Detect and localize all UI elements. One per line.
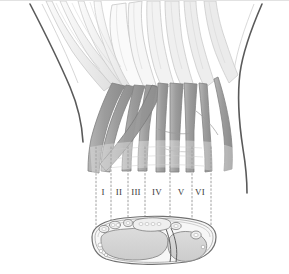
- anatomy-illustration: [0, 1, 289, 274]
- pocket-compartment-4-lumen-b: [145, 223, 149, 226]
- cross-section-radius: [101, 228, 168, 260]
- pocket-compartment-4-lumen-a: [139, 223, 143, 226]
- distal-radioulnar-cross-section: [92, 216, 216, 264]
- pocket-compartment-6-lumen: [194, 233, 198, 236]
- extensor-compartment-figure: I II III IV V VI: [0, 0, 289, 274]
- pocket-compartment-1-lumen: [102, 228, 106, 231]
- compartment-label-vi: VI: [195, 188, 205, 197]
- pocket-compartment-4-lumen-c: [151, 223, 155, 226]
- pocket-compartment-3-lumen: [126, 222, 130, 225]
- compartment-label-iv: IV: [152, 188, 162, 197]
- compartment-label-ii: II: [116, 188, 122, 197]
- pocket-compartment-2-lumen-a: [111, 224, 115, 227]
- pocket-compartment-2-lumen-b: [116, 224, 120, 227]
- pocket-compartment-5-lumen: [174, 225, 178, 228]
- pocket-compartment-4-lumen-d: [157, 223, 161, 226]
- compartment-label-v: V: [178, 188, 185, 197]
- compartment-label-i: I: [101, 188, 104, 197]
- compartment-label-iii: III: [131, 188, 141, 197]
